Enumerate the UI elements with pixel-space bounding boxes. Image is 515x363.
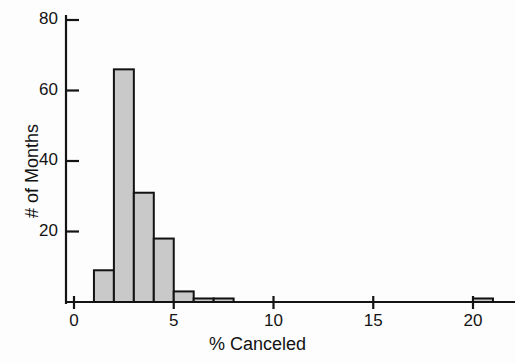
histogram-bar bbox=[114, 69, 134, 302]
x-axis-tick-label: 15 bbox=[348, 311, 398, 331]
x-axis-tick-label: 10 bbox=[249, 311, 299, 331]
histogram-bar bbox=[194, 298, 214, 302]
y-axis-tick-label: 60 bbox=[10, 80, 58, 100]
y-axis-tick-label: 80 bbox=[10, 9, 58, 29]
histogram-figure: # of Months % Canceled 2040608005101520 bbox=[0, 0, 515, 363]
histogram-plot-area bbox=[0, 0, 515, 363]
histogram-bar bbox=[154, 239, 174, 302]
y-axis-title: # of Months bbox=[22, 124, 43, 218]
y-axis-tick-label: 20 bbox=[10, 221, 58, 241]
histogram-bar bbox=[174, 291, 194, 302]
x-axis-tick-label: 0 bbox=[49, 311, 99, 331]
y-axis-tick-label: 40 bbox=[10, 150, 58, 170]
histogram-bar bbox=[94, 270, 114, 302]
histogram-bar bbox=[473, 298, 493, 302]
histogram-bar bbox=[134, 193, 154, 302]
histogram-bar bbox=[214, 298, 234, 302]
x-axis-tick-label: 5 bbox=[149, 311, 199, 331]
x-axis-title: % Canceled bbox=[0, 334, 515, 355]
x-axis-tick-label: 20 bbox=[448, 311, 498, 331]
